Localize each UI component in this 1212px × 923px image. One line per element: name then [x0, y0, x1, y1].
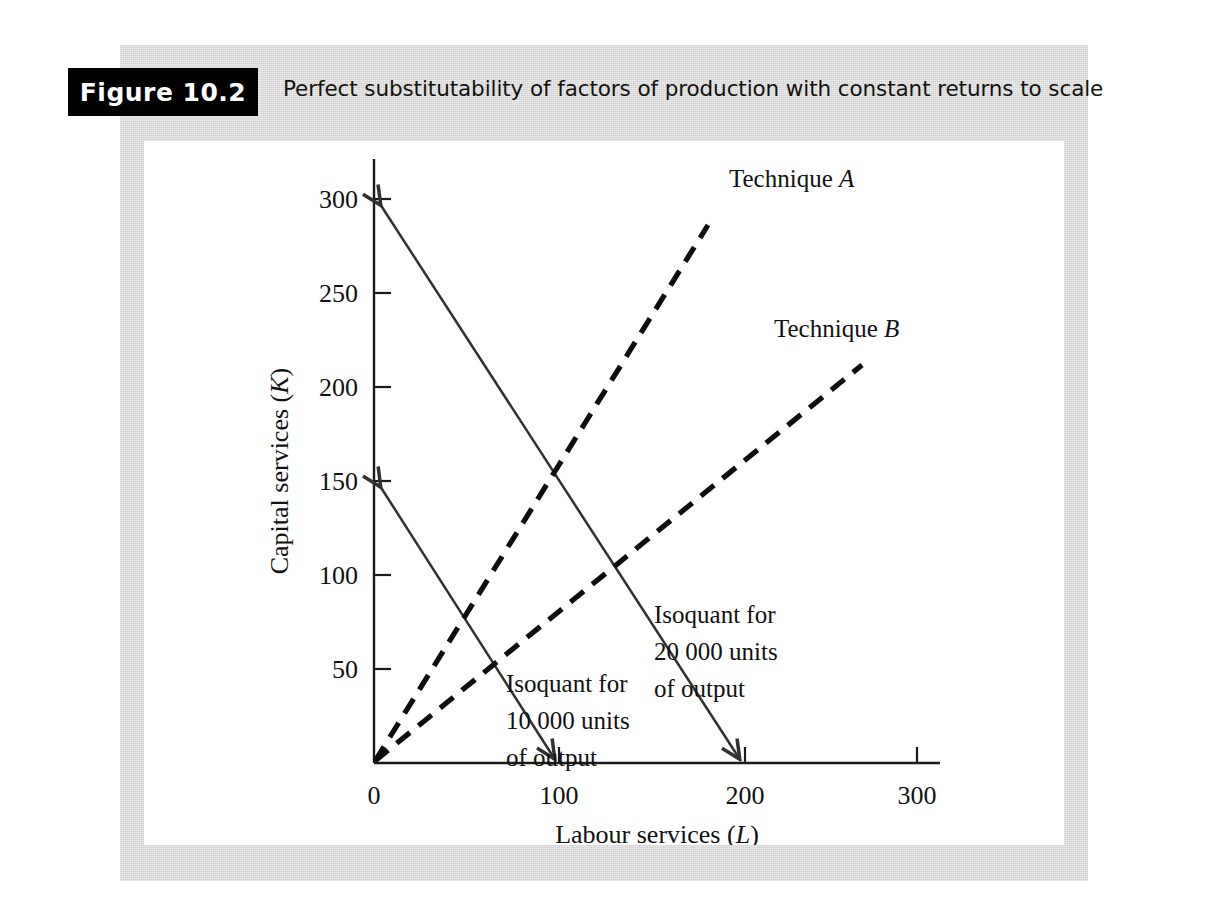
technique-a-symbol: A [837, 165, 855, 192]
paren-close-x: ) [750, 820, 759, 845]
figure-number-badge: Figure 10.2 [68, 68, 258, 116]
y-tick-label-100: 100 [319, 561, 358, 590]
x-axis-title-symbol: L [735, 820, 750, 845]
isoquant-10000-annotation: Isoquant for 10 000 units of output [506, 670, 630, 771]
x-tick-label-200: 200 [726, 781, 765, 810]
y-axis-tick-labels: 300 250 200 150 100 50 [319, 185, 358, 684]
y-axis-title-symbol: K [265, 375, 294, 395]
iso10-line-1: Isoquant for [506, 670, 628, 697]
plot-area: 300 250 200 150 100 50 0 100 200 300 Lab… [144, 141, 1064, 845]
y-tick-label-200: 200 [319, 373, 358, 402]
paren-close-y: ) [265, 368, 294, 377]
paren-open-y: ( [265, 394, 294, 403]
y-axis-title-text: Capital services [265, 409, 294, 574]
y-axis-title: Capital services (K) [265, 368, 294, 575]
figure-caption: Perfect substitutability of factors of p… [283, 76, 1073, 101]
technique-b-prefix: Technique [774, 315, 884, 342]
iso20-line-3: of output [654, 675, 745, 702]
x-axis-title-text: Labour services [555, 820, 720, 845]
y-tick-label-150: 150 [319, 467, 358, 496]
iso20-line-1: Isoquant for [654, 601, 776, 628]
technique-b-line [375, 365, 862, 761]
iso20-line-2: 20 000 units [654, 638, 778, 665]
y-tick-label-50: 50 [332, 655, 358, 684]
technique-b-symbol: B [884, 315, 899, 342]
isoquant-20000-annotation: Isoquant for 20 000 units of output [654, 601, 778, 702]
axes-group [374, 159, 940, 763]
technique-b-label: Technique B [774, 315, 899, 342]
x-tick-label-0: 0 [368, 781, 381, 810]
x-tick-label-100: 100 [540, 781, 579, 810]
iso10-line-2: 10 000 units [506, 707, 630, 734]
x-axis-tick-labels: 0 100 200 300 [368, 781, 937, 810]
iso10-line-3: of output [506, 744, 597, 771]
y-tick-label-300: 300 [319, 185, 358, 214]
technique-a-label: Technique A [729, 165, 855, 192]
paren-open-x: ( [727, 820, 736, 845]
x-tick-label-300: 300 [898, 781, 937, 810]
x-axis-title: Labour services (L) [555, 820, 759, 845]
technique-a-prefix: Technique [729, 165, 839, 192]
y-tick-label-250: 250 [319, 279, 358, 308]
figure-number-label: Figure 10.2 [80, 78, 247, 107]
y-axis-ticks [374, 199, 391, 669]
isoquant-chart: 300 250 200 150 100 50 0 100 200 300 Lab… [144, 141, 1064, 845]
